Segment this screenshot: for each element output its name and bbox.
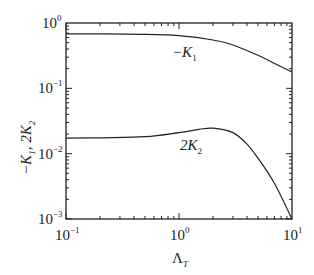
curve-label-neg-k1: −K1 — [172, 44, 197, 63]
y-tick-1e-1: 10−1 — [38, 78, 63, 96]
curves — [66, 34, 292, 219]
x-axis-title: ΛT — [172, 250, 189, 269]
x-tick-labels: 10−1 100 101 — [55, 225, 303, 243]
curve-label-2k2: 2K2 — [180, 137, 202, 156]
x-tick-1e0: 100 — [170, 225, 190, 243]
x-tick-1e1: 101 — [283, 225, 303, 243]
y-axis-title: −K1, 2K2 — [18, 120, 37, 175]
y-tick-1e0: 100 — [42, 13, 62, 31]
log-log-chart: 100 10−1 10−2 10−3 10−1 100 101 ΛT −K1, … — [0, 0, 314, 275]
y-tick-labels: 100 10−1 10−2 10−3 — [38, 13, 63, 227]
y-tick-1e-3: 10−3 — [38, 209, 63, 227]
y-tick-1e-2: 10−2 — [38, 144, 63, 162]
x-tick-1e-1: 10−1 — [55, 225, 80, 243]
series-2k2-line — [66, 128, 292, 219]
